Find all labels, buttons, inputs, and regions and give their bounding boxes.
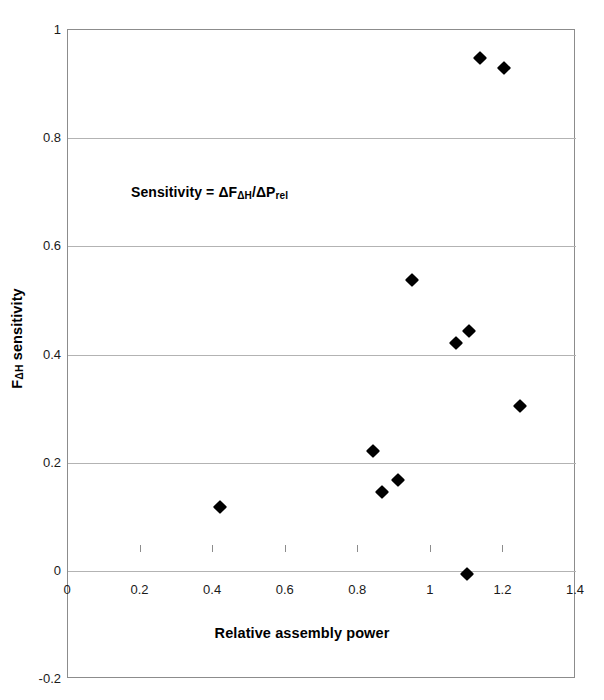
sensitivity-annotation: Sensitivity = ΔFΔH/ΔPrel	[131, 184, 288, 201]
annotation-subscript-dh: ΔH	[237, 190, 252, 201]
x-tick-label-0.6: 0.6	[255, 583, 315, 596]
x-tick-mark-0.4	[212, 545, 213, 552]
x-axis-tick-labels: 00.20.40.60.811.21.4	[0, 0, 604, 700]
x-tick-label-0.8: 0.8	[327, 583, 387, 596]
annotation-subscript-rel: rel	[276, 190, 289, 201]
x-tick-label-1.2: 1.2	[472, 583, 532, 596]
x-tick-mark-1	[430, 545, 431, 552]
x-tick-label-1: 1	[400, 583, 460, 596]
x-tick-mark-0.2	[140, 545, 141, 552]
y-axis-title-rest: sensitivity	[9, 288, 25, 364]
x-tick-mark-0.6	[285, 545, 286, 552]
x-tick-mark-1.2	[502, 545, 503, 552]
x-tick-label-0: 0	[37, 583, 97, 596]
x-axis-title: Relative assembly power	[0, 625, 604, 641]
x-tick-label-0.2: 0.2	[110, 583, 170, 596]
x-tick-label-1.4: 1.4	[545, 583, 604, 596]
y-axis-title-base: F	[9, 380, 25, 389]
annotation-part-a: Sensitivity = ΔF	[131, 184, 237, 200]
y-axis-title-subscript: ΔH	[14, 364, 25, 379]
annotation-part-b: /ΔP	[252, 184, 276, 200]
y-axis-title: FΔH sensitivity	[9, 258, 26, 418]
scatter-chart-figure: -0.200.20.40.60.81 00.20.40.60.811.21.4 …	[0, 0, 604, 700]
x-tick-label-0.4: 0.4	[182, 583, 242, 596]
x-tick-mark-0.8	[357, 545, 358, 552]
